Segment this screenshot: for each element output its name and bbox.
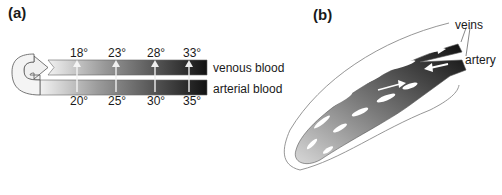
rete-mirabile xyxy=(284,23,470,170)
arterial-band-fill xyxy=(40,80,207,95)
arterial-temp-2: 25° xyxy=(108,94,126,108)
venous-temp-4: 33° xyxy=(183,46,201,60)
arterial-temp-1: 20° xyxy=(70,94,88,108)
venous-temp-2: 23° xyxy=(108,46,126,60)
panel-a-label: (a) xyxy=(8,4,26,21)
venous-temp-1: 18° xyxy=(70,46,88,60)
venous-band xyxy=(48,60,207,75)
venous-temp-3: 28° xyxy=(147,46,165,60)
venous-blood-label: venous blood xyxy=(213,61,284,75)
panel-b-label: (b) xyxy=(313,6,332,23)
veins-leader-2 xyxy=(466,28,470,56)
artery-label: artery xyxy=(465,53,496,67)
veins-label: veins xyxy=(455,18,483,32)
arterial-temp-4: 35° xyxy=(183,94,201,108)
arterial-blood-label: arterial blood xyxy=(213,82,282,96)
arterial-temp-3: 30° xyxy=(147,94,165,108)
